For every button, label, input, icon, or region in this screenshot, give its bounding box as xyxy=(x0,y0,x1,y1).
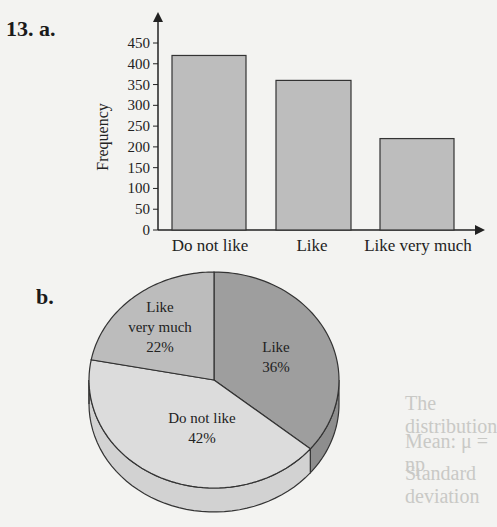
pie-slice-label: Do not like xyxy=(168,410,236,426)
pie-slice-label: 36% xyxy=(262,359,290,375)
pie-slice-label: Like xyxy=(146,299,174,315)
pie-slice-label: 42% xyxy=(188,430,216,446)
pie-slice-label: very much xyxy=(128,319,192,335)
pie-slice-label: Like xyxy=(262,339,290,355)
pie-slice-label: 22% xyxy=(146,339,174,355)
